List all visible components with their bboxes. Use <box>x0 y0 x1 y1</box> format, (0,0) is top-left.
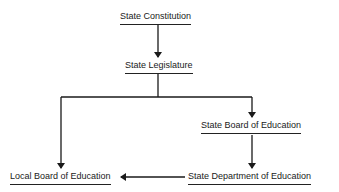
node-state-department-of-education: State Department of Education <box>188 171 311 185</box>
connector-lines <box>0 0 339 192</box>
node-state-constitution: State Constitution <box>120 11 191 25</box>
node-local-board-of-education: Local Board of Education <box>10 171 111 185</box>
node-state-board-of-education: State Board of Education <box>201 120 301 134</box>
node-state-legislature: State Legislature <box>125 60 193 74</box>
